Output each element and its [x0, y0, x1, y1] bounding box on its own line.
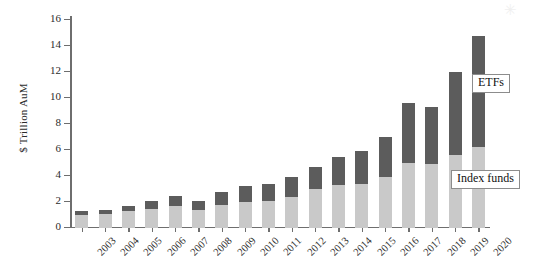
- x-tick-2019: [455, 228, 456, 232]
- y-tick-label: 8: [56, 116, 62, 128]
- y-tick-label: 14: [50, 38, 61, 50]
- chart-container: $ Trillion AuM 0246810121416 20032004200…: [0, 0, 542, 275]
- bar-2003: [75, 211, 88, 228]
- bar-segment-index-funds: [449, 155, 462, 228]
- x-tick-2004: [105, 228, 106, 232]
- bar-2007: [169, 196, 182, 229]
- bar-2014: [332, 157, 345, 229]
- x-tick-2011: [268, 228, 269, 232]
- bar-2017: [402, 103, 415, 228]
- bar-segment-etfs: [285, 177, 298, 197]
- x-tick-2009: [222, 228, 223, 232]
- scan-artifact-mark: ✳: [503, 2, 517, 18]
- x-tick-2007: [175, 228, 176, 232]
- y-tick-mark: [64, 123, 70, 124]
- bar-segment-index-funds: [169, 206, 182, 228]
- bar-segment-etfs: [192, 201, 205, 210]
- bar-segment-etfs: [309, 167, 322, 189]
- x-tick-2008: [198, 228, 199, 232]
- bar-2006: [145, 201, 158, 228]
- y-tick-label: 2: [56, 194, 62, 206]
- bar-segment-index-funds: [309, 189, 322, 228]
- bar-segment-etfs: [122, 206, 135, 211]
- bar-2005: [122, 206, 135, 228]
- bar-segment-index-funds: [145, 209, 158, 229]
- y-tick-label: 4: [56, 168, 62, 180]
- x-label-2020: 2020: [491, 235, 514, 258]
- x-tick-2017: [408, 228, 409, 232]
- bar-segment-index-funds: [379, 177, 392, 228]
- bar-2013: [309, 167, 322, 228]
- bar-segment-etfs: [379, 137, 392, 177]
- bar-2004: [99, 210, 112, 228]
- bar-segment-index-funds: [285, 197, 298, 228]
- bar-segment-etfs: [145, 201, 158, 209]
- x-label-2010: 2010: [258, 235, 281, 258]
- bar-segment-etfs: [99, 210, 112, 214]
- y-tick-mark: [64, 175, 70, 176]
- y-tick-mark: [64, 227, 70, 228]
- y-tick-mark: [64, 149, 70, 150]
- y-tick-mark: [64, 19, 70, 20]
- x-tick-2015: [362, 228, 363, 232]
- x-tick-2003: [82, 228, 83, 232]
- y-axis-line: [70, 16, 72, 228]
- x-label-2013: 2013: [328, 235, 351, 258]
- x-label-2011: 2011: [281, 235, 303, 257]
- x-tick-2014: [338, 228, 339, 232]
- bar-segment-index-funds: [239, 202, 252, 228]
- x-label-2019: 2019: [468, 235, 491, 258]
- x-label-2018: 2018: [445, 235, 468, 258]
- y-axis-label: $ Trillion AuM: [17, 43, 29, 193]
- bar-2018: [425, 107, 438, 228]
- y-tick-mark: [64, 201, 70, 202]
- x-label-2007: 2007: [188, 235, 211, 258]
- bar-segment-index-funds: [402, 163, 415, 228]
- bar-segment-index-funds: [122, 211, 135, 228]
- bar-segment-etfs: [449, 72, 462, 155]
- x-label-2009: 2009: [235, 235, 258, 258]
- bar-2015: [355, 151, 368, 228]
- bar-segment-index-funds: [192, 210, 205, 228]
- bar-segment-index-funds: [425, 164, 438, 228]
- x-label-2012: 2012: [305, 235, 328, 258]
- y-tick-mark: [64, 45, 70, 46]
- x-label-2015: 2015: [375, 235, 398, 258]
- plot-area: 0246810121416: [70, 20, 490, 228]
- x-label-2006: 2006: [165, 235, 188, 258]
- bar-segment-index-funds: [355, 184, 368, 228]
- bar-2010: [239, 186, 252, 228]
- bar-segment-etfs: [355, 151, 368, 184]
- bar-segment-etfs: [262, 184, 275, 201]
- x-tick-2012: [292, 228, 293, 232]
- y-tick-mark: [64, 71, 70, 72]
- x-label-2003: 2003: [95, 235, 118, 258]
- annotation-index-funds: Index funds: [451, 170, 520, 189]
- x-label-2017: 2017: [421, 235, 444, 258]
- bar-segment-index-funds: [262, 201, 275, 228]
- bar-segment-etfs: [75, 211, 88, 215]
- x-tick-2013: [315, 228, 316, 232]
- x-label-2004: 2004: [118, 235, 141, 258]
- bar-2012: [285, 177, 298, 228]
- x-tick-2010: [245, 228, 246, 232]
- x-label-2005: 2005: [141, 235, 164, 258]
- y-tick-label: 12: [50, 64, 61, 76]
- x-tick-2018: [432, 228, 433, 232]
- bar-segment-index-funds: [215, 205, 228, 228]
- bar-segment-etfs: [332, 157, 345, 186]
- bar-2020: [472, 36, 485, 228]
- y-tick-label: 10: [50, 90, 61, 102]
- x-tick-2020: [478, 228, 479, 232]
- x-label-2016: 2016: [398, 235, 421, 258]
- bar-segment-etfs: [239, 186, 252, 202]
- x-label-2014: 2014: [351, 235, 374, 258]
- y-tick-label: 16: [50, 12, 61, 24]
- bar-segment-etfs: [215, 192, 228, 205]
- x-tick-2006: [152, 228, 153, 232]
- bar-segment-etfs: [169, 196, 182, 206]
- x-label-2008: 2008: [211, 235, 234, 258]
- bar-segment-index-funds: [75, 215, 88, 228]
- bar-segment-etfs: [425, 107, 438, 164]
- bar-segment-index-funds: [332, 185, 345, 228]
